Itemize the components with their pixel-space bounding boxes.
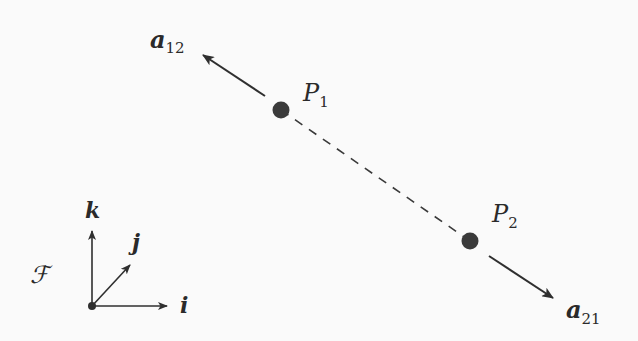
label-p1: P1 bbox=[302, 79, 329, 111]
dashed-connector-line bbox=[281, 110, 470, 241]
label-axis-i: i bbox=[180, 292, 188, 318]
point-p2-dot bbox=[462, 233, 479, 250]
vector-a21-arrow bbox=[489, 256, 553, 298]
label-frame-f: ℱ bbox=[30, 261, 53, 289]
axis-j-arrow bbox=[92, 265, 130, 306]
label-axis-j: j bbox=[128, 229, 140, 255]
diagram-canvas: a12 P1 P2 a21 k j i ℱ bbox=[0, 0, 638, 341]
reference-frame: k j i ℱ bbox=[30, 197, 188, 318]
label-a21: a21 bbox=[566, 295, 601, 328]
frame-origin-dot bbox=[88, 302, 96, 310]
point-p1-dot bbox=[273, 102, 290, 119]
label-a12: a12 bbox=[150, 25, 185, 57]
label-p2: P2 bbox=[491, 200, 518, 232]
label-axis-k: k bbox=[85, 197, 100, 223]
vector-a12-arrow bbox=[203, 55, 265, 96]
